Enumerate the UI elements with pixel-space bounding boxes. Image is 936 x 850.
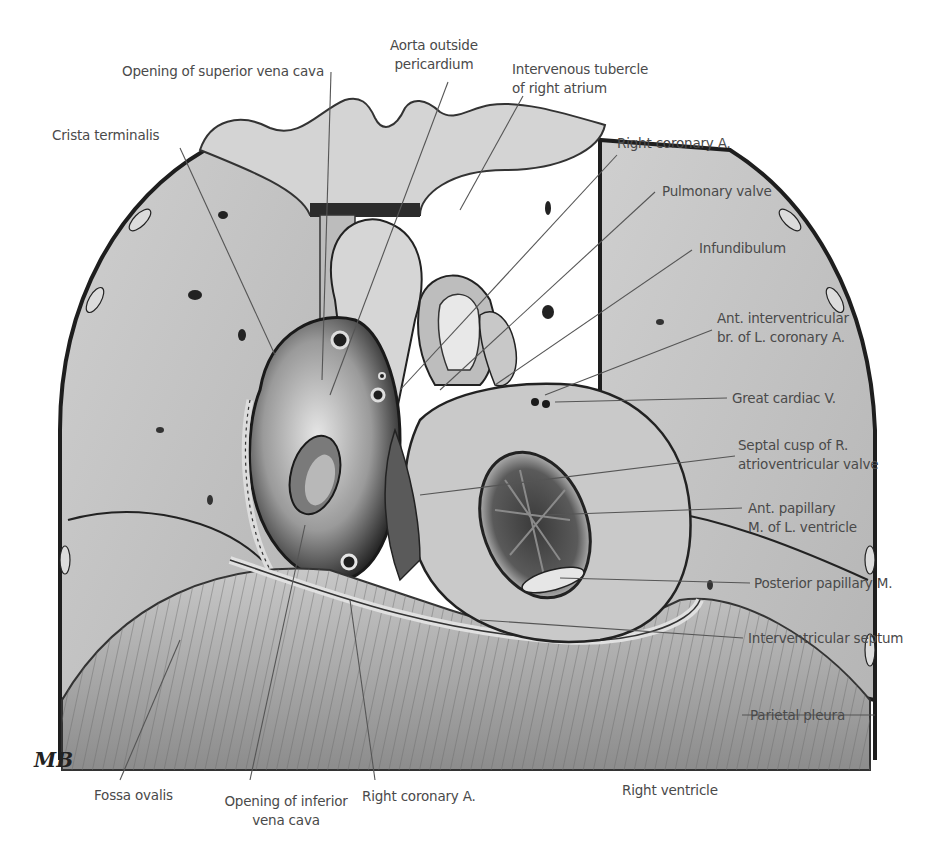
label-interventricular-septum: Interventricular septum (748, 629, 903, 648)
anatomical-figure: MB Crista terminalis Opening of superior… (0, 0, 936, 850)
label-pulmonary-valve: Pulmonary valve (662, 182, 772, 201)
label-text: Right ventricle (622, 781, 718, 800)
label-text: Crista terminalis (52, 126, 159, 145)
label-right-coronary-a-upper: Right coronary A. (617, 134, 731, 153)
label-crista-terminalis: Crista terminalis (52, 126, 159, 145)
label-text: Right coronary A. (617, 134, 731, 153)
label-text: Posterior papillary M. (754, 574, 892, 593)
label-right-ventricle: Right ventricle (622, 781, 718, 800)
label-text: M. of L. ventricle (748, 518, 857, 537)
label-text: Intervenous tubercle (512, 60, 648, 79)
label-infundibulum: Infundibulum (699, 239, 786, 258)
label-septal-cusp: Septal cusp of R. atrioventricular valve (738, 436, 878, 474)
label-text: Right coronary A. (362, 787, 476, 806)
label-text: of right atrium (512, 79, 648, 98)
label-text: Interventricular septum (748, 629, 903, 648)
label-text: Infundibulum (699, 239, 786, 258)
label-text: Pulmonary valve (662, 182, 772, 201)
label-text: atrioventricular valve (738, 455, 878, 474)
label-opening-superior-vena-cava: Opening of superior vena cava (122, 62, 324, 81)
label-text: Parietal pleura (750, 706, 845, 725)
label-text: Ant. interventricular (717, 309, 849, 328)
label-text: Septal cusp of R. (738, 436, 878, 455)
label-posterior-papillary-m: Posterior papillary M. (754, 574, 892, 593)
label-fossa-ovalis: Fossa ovalis (94, 786, 173, 805)
label-right-coronary-a-lower: Right coronary A. (362, 787, 476, 806)
label-text: Great cardiac V. (732, 389, 836, 408)
label-text: Fossa ovalis (94, 786, 173, 805)
label-opening-inferior-vena-cava: Opening of inferior vena cava (216, 792, 356, 830)
label-ant-papillary-m: Ant. papillary M. of L. ventricle (748, 499, 857, 537)
artist-signature: MB (34, 748, 73, 772)
label-text: pericardium (390, 55, 478, 74)
label-text: vena cava (216, 811, 356, 830)
label-text: Opening of inferior (216, 792, 356, 811)
label-great-cardiac-v: Great cardiac V. (732, 389, 836, 408)
label-text: Aorta outside (390, 36, 478, 55)
label-text: Opening of superior vena cava (122, 62, 324, 81)
label-aorta-outside-pericardium: Aorta outside pericardium (390, 36, 478, 74)
label-ant-interventricular-br: Ant. interventricular br. of L. coronary… (717, 309, 849, 347)
label-intervenous-tubercle: Intervenous tubercle of right atrium (512, 60, 648, 98)
label-text: br. of L. coronary A. (717, 328, 849, 347)
label-parietal-pleura: Parietal pleura (750, 706, 845, 725)
label-text: Ant. papillary (748, 499, 857, 518)
